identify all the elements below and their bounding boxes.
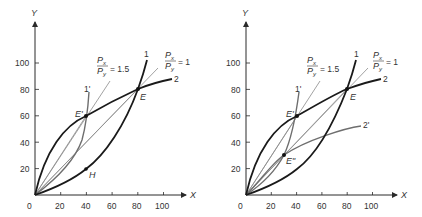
point-E-prime [84, 114, 88, 118]
x-tick-label: 60 [107, 201, 117, 211]
y-axis-label: Y [31, 8, 38, 18]
curve-2-prime [246, 126, 361, 195]
origin-label: 0 [27, 201, 32, 211]
x-tick-label: 80 [342, 201, 352, 211]
label-E-prime: E' [286, 109, 294, 119]
label-E: E [350, 92, 357, 102]
left-panel: Y X 0 20 40 60 80 100 20 40 60 80 10 [15, 8, 197, 211]
svg-text:= 1.5: = 1.5 [320, 64, 339, 74]
y-tick-label: 80 [231, 85, 241, 95]
y-axis-label: Y [242, 8, 249, 18]
curve-1-prime [35, 92, 89, 195]
x-axis-label: X [189, 190, 197, 200]
y-tick-label: 100 [15, 58, 29, 68]
label-curve-1-prime: 1' [295, 84, 302, 94]
curve-1 [246, 60, 356, 195]
svg-text:= 1.5: = 1.5 [110, 64, 129, 74]
price-ratio-1-5-label: Px Py = 1.5 [307, 55, 339, 77]
x-tick-label: 40 [291, 201, 301, 211]
label-curve-1-prime: 1' [84, 84, 91, 94]
label-curve-2: 2 [383, 74, 388, 84]
x-axis-label: X [400, 190, 408, 200]
point-E-prime [295, 114, 299, 118]
label-E-double-prime: E" [286, 156, 296, 166]
y-tick-label: 20 [20, 164, 30, 174]
svg-text:Px: Px [373, 50, 383, 61]
svg-text:= 1: = 1 [386, 57, 398, 67]
price-ratio-1-label: Px Py = 1 [373, 50, 398, 72]
curve-2 [246, 79, 381, 195]
chord-to-E-prime [35, 116, 86, 195]
y-tick-label: 40 [20, 138, 30, 148]
point-H [84, 167, 88, 171]
y-tick-label: 60 [231, 111, 241, 121]
label-curve-1: 1 [354, 49, 359, 59]
label-E-prime: E' [75, 109, 83, 119]
x-tick-label: 40 [81, 201, 91, 211]
label-curve-2: 2 [174, 74, 179, 84]
svg-text:= 1: = 1 [178, 57, 190, 67]
y-tick-label: 20 [231, 164, 241, 174]
point-E [136, 87, 140, 91]
x-tick-label: 60 [317, 201, 327, 211]
svg-text:Py: Py [307, 66, 317, 77]
x-tick-label: 80 [132, 201, 142, 211]
x-tick-label: 20 [55, 201, 65, 211]
label-curve-1: 1 [144, 49, 149, 59]
price-ratio-1-label: Px Py = 1 [165, 50, 190, 72]
svg-text:Py: Py [373, 61, 383, 72]
x-tick-label: 100 [364, 201, 378, 211]
point-E [345, 87, 349, 91]
svg-text:Px: Px [307, 55, 317, 66]
svg-text:Py: Py [165, 61, 175, 72]
right-panel: Y X 0 20 40 60 80 100 20 40 60 80 100 [226, 8, 408, 211]
y-tick-label: 80 [20, 85, 30, 95]
curve-1-prime [246, 92, 299, 195]
price-ratio-1-5-label: Px Py = 1.5 [97, 55, 129, 77]
x-tick-label: 100 [155, 201, 169, 211]
y-tick-label: 60 [20, 111, 30, 121]
svg-text:Px: Px [97, 55, 107, 66]
label-curve-2-prime: 2' [363, 120, 370, 130]
y-tick-label: 100 [226, 58, 240, 68]
origin-label: 0 [238, 201, 243, 211]
svg-text:Py: Py [97, 66, 107, 77]
chord-to-E [35, 89, 138, 195]
x-tick-label: 20 [266, 201, 276, 211]
label-H: H [89, 170, 96, 180]
y-tick-label: 40 [231, 138, 241, 148]
label-E: E [140, 92, 147, 102]
svg-text:Px: Px [165, 50, 175, 61]
diagram-canvas: Y X 0 20 40 60 80 100 20 40 60 80 10 [0, 0, 422, 217]
